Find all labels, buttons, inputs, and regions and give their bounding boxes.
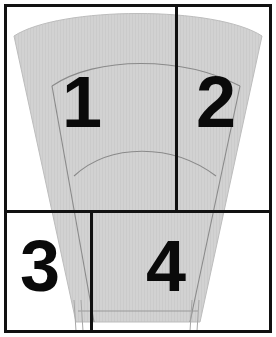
quadrant-label-3: 3 <box>20 230 59 302</box>
quadrant-label-2: 2 <box>196 66 235 138</box>
quadrant-label-4: 4 <box>146 230 185 302</box>
quadrant-label-1: 1 <box>62 66 101 138</box>
figure-canvas: 1 2 3 4 <box>0 0 276 337</box>
